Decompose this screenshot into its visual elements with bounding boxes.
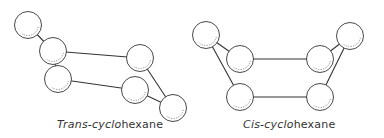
atom-sphere (122, 77, 149, 104)
atom-sphere (337, 23, 364, 50)
atom-sphere (127, 45, 154, 72)
cis-atom-carbon-1 (193, 22, 220, 49)
atom-sphere (160, 95, 187, 122)
cis-caption-plain: hexane (294, 118, 336, 131)
atom-sphere (193, 22, 220, 49)
trans-caption-italic: Trans-cyclo (57, 118, 121, 131)
trans-caption-plain: hexane (121, 118, 163, 131)
atom-sphere (45, 66, 72, 93)
atom-sphere (227, 46, 254, 73)
cis-atom-carbon-4 (337, 23, 364, 50)
bonds-layer (28, 25, 350, 108)
atom-sphere (307, 84, 334, 111)
trans-cyclohexane-caption: Trans-cyclohexane (57, 118, 163, 131)
cis-atom-carbon-2 (227, 46, 254, 73)
trans-atom-carbon-6 (160, 95, 187, 122)
trans-atom-carbon-1 (15, 12, 42, 39)
trans-atom-carbon-3 (45, 66, 72, 93)
trans-atom-carbon-2 (40, 38, 67, 65)
atom-sphere (40, 38, 67, 65)
trans-atom-carbon-5 (122, 77, 149, 104)
atom-sphere (307, 46, 334, 73)
atom-sphere (227, 84, 254, 111)
cis-atom-carbon-5 (227, 84, 254, 111)
cis-atom-carbon-3 (307, 46, 334, 73)
trans-atom-carbon-4 (127, 45, 154, 72)
atom-sphere (15, 12, 42, 39)
cis-atom-carbon-6 (307, 84, 334, 111)
cis-cyclohexane-caption: Cis-cyclohexane (243, 118, 335, 131)
cis-caption-italic: Cis-cyclo (243, 118, 294, 131)
atoms-layer (15, 12, 364, 122)
